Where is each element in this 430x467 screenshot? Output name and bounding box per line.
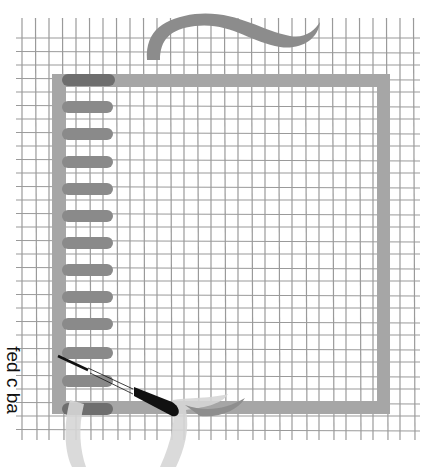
stitch xyxy=(62,156,113,168)
stitch xyxy=(62,210,113,222)
stitch xyxy=(62,237,113,249)
stitch xyxy=(62,375,113,387)
stitch-column xyxy=(62,74,115,415)
stitch xyxy=(62,74,115,86)
stitch-diagram xyxy=(0,0,430,467)
step-label: fed c ba xyxy=(3,340,23,420)
stitch xyxy=(62,291,113,303)
stitch xyxy=(62,347,113,359)
stitch xyxy=(62,183,113,195)
stitch xyxy=(62,101,113,113)
stitch xyxy=(62,318,113,330)
stitch xyxy=(62,264,113,276)
stitch xyxy=(62,128,113,140)
